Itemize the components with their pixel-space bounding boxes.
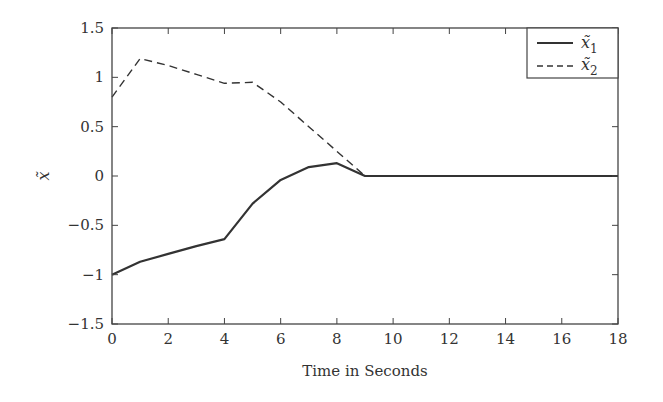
plot-lines	[112, 59, 618, 275]
series-line-1	[112, 163, 618, 275]
y-tick-label: 1.5	[80, 19, 104, 37]
x-tick-label: 18	[608, 330, 627, 348]
x-tick-label: 0	[107, 330, 117, 348]
x-tick-label: 4	[220, 330, 230, 348]
x-tick-label: 2	[163, 330, 173, 348]
series-line-2	[112, 59, 365, 176]
x-tick-label: 8	[332, 330, 342, 348]
y-tick-label: 0	[94, 167, 104, 185]
y-axis-title-text: x̃	[34, 171, 53, 180]
x-tick-label: 10	[384, 330, 403, 348]
x-tick-label: 6	[276, 330, 286, 348]
x-tick-label: 14	[496, 330, 515, 348]
x-axis-title: Time in Seconds	[302, 362, 427, 380]
line-chart: 024681012141618 1.510.50−0.5−1−1.5 Time …	[0, 0, 663, 402]
y-axis-title: x̃	[34, 171, 53, 180]
x-tick-label: 12	[440, 330, 459, 348]
y-tick-label: −1	[82, 266, 104, 284]
y-tick-label: −0.5	[68, 216, 104, 234]
legend-box	[527, 28, 618, 78]
x-tick-label: 16	[552, 330, 571, 348]
y-tick-label: −1.5	[68, 315, 104, 333]
y-tick-label: 0.5	[80, 118, 104, 136]
y-tick-label: 1	[94, 68, 104, 86]
legend: x̃1 x̃2	[527, 28, 618, 78]
